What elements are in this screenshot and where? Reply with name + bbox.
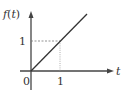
origin-label: 0 xyxy=(23,75,30,88)
y-axis-arrow-icon xyxy=(29,11,34,18)
ramp-line xyxy=(31,14,87,71)
y-tick-1: 1 xyxy=(19,35,26,48)
x-tick-1: 1 xyxy=(57,75,64,88)
x-axis-label: t xyxy=(116,65,121,78)
y-axis-label: f(t) xyxy=(2,8,20,21)
x-axis-arrow-icon xyxy=(107,69,114,74)
ramp-function-chart: f(t) t 1 0 1 xyxy=(0,0,125,97)
